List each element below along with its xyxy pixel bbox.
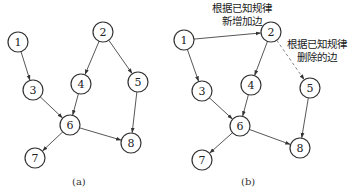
edge-b-4-6: [243, 95, 249, 116]
node-label: 8: [128, 137, 135, 150]
node-b-1: 1: [174, 30, 194, 50]
node-a-3: 3: [23, 80, 43, 100]
node-a-6: 6: [60, 115, 80, 135]
node-a-4: 4: [71, 74, 91, 94]
edge-a-1-3: [21, 52, 30, 80]
edge-b-1-2: [194, 33, 261, 39]
node-label: 7: [199, 154, 206, 167]
node-label: 4: [78, 78, 85, 91]
node-label: 7: [32, 152, 39, 165]
node-a-1: 1: [8, 32, 28, 52]
added-edge-annotation: 根据已知规律 新增加边: [212, 2, 272, 28]
node-a-7: 7: [25, 148, 45, 168]
added-edge-annotation-line1: 根据已知规律: [212, 2, 272, 15]
edges-layer: [21, 33, 308, 153]
removed-edge-annotation-line2: 删除的边: [287, 51, 347, 64]
diagram-canvas: 1234567812345678 根据已知规律 新增加边 根据已知规律 删除的边…: [0, 0, 357, 195]
edge-b-6-7: [210, 133, 233, 153]
node-b-4: 4: [241, 75, 261, 95]
node-label: 8: [297, 142, 304, 155]
edge-b-6-8: [249, 129, 290, 144]
edge-a-2-4: [85, 41, 99, 74]
node-label: 5: [135, 76, 142, 89]
edge-b-5-8: [302, 98, 309, 138]
node-b-5: 5: [300, 78, 320, 98]
node-label: 6: [67, 119, 74, 132]
node-a-2: 2: [93, 22, 113, 42]
node-b-6: 6: [230, 116, 250, 136]
nodes-layer: 1234567812345678: [8, 22, 320, 170]
edge-b-1-3: [187, 49, 198, 81]
node-label: 2: [100, 26, 107, 39]
node-b-7: 7: [192, 150, 212, 170]
removed-edge-annotation: 根据已知规律 删除的边: [287, 38, 347, 64]
node-label: 1: [15, 36, 22, 49]
node-label: 5: [307, 82, 314, 95]
edge-a-5-8: [132, 92, 137, 133]
graph-diagram: 1234567812345678: [0, 0, 357, 195]
edge-b-2-4: [255, 41, 268, 75]
node-b-3: 3: [192, 81, 212, 101]
added-edge-annotation-line2: 新增加边: [212, 15, 272, 28]
edge-a-3-6: [40, 97, 62, 118]
node-b-8: 8: [290, 138, 310, 158]
removed-edge-annotation-line1: 根据已知规律: [287, 38, 347, 51]
caption-b: (b): [241, 176, 255, 187]
edge-a-2-5: [109, 40, 132, 73]
node-label: 4: [248, 79, 255, 92]
node-a-5: 5: [128, 72, 148, 92]
edge-b-3-6: [209, 98, 232, 119]
node-label: 3: [199, 85, 206, 98]
node-label: 1: [181, 34, 188, 47]
edge-a-6-8: [80, 128, 121, 140]
edge-a-6-7: [43, 132, 63, 151]
edge-a-4-6: [73, 94, 79, 115]
caption-a: (a): [72, 176, 86, 187]
node-label: 6: [237, 120, 244, 133]
node-label: 3: [30, 84, 37, 97]
node-a-8: 8: [121, 133, 141, 153]
